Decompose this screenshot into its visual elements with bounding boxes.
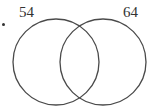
left-set-circle [13,19,99,105]
right-set-circle [60,19,146,105]
venn-diagram [0,0,150,111]
